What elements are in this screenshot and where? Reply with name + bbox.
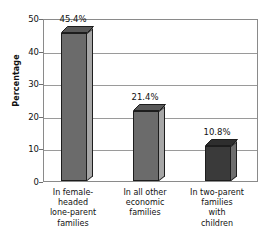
x-axis-label-line: families xyxy=(109,208,181,218)
bar-chart: Percentage 01020304050 45.4%21.4%10.8% I… xyxy=(0,0,274,242)
bar-value-label: 21.4% xyxy=(121,93,169,102)
bar-side-face xyxy=(159,107,165,181)
y-axis-tick-label: 50 xyxy=(5,15,39,24)
x-axis-label-line: with xyxy=(181,208,253,218)
bar-front-face xyxy=(61,33,87,181)
y-axis-tick-label: 20 xyxy=(5,113,39,122)
y-axis-tick-label: 0 xyxy=(5,178,39,187)
bar-front-face xyxy=(133,111,159,181)
x-axis-label: In two-parentfamilieswithchildren xyxy=(181,188,253,229)
bar-value-label: 45.4% xyxy=(49,15,97,24)
x-axis-label-line: headed xyxy=(37,198,109,208)
bar-side-face xyxy=(87,28,93,181)
y-axis-tick-label: 10 xyxy=(5,145,39,154)
bar-side-face xyxy=(231,141,237,181)
x-axis-label-line: families xyxy=(181,198,253,208)
y-axis-tick-label: 40 xyxy=(5,48,39,57)
bar-front-face xyxy=(205,146,231,181)
y-axis-tick-mark xyxy=(39,182,43,183)
x-axis-label: In female-headedlone-parentfamilies xyxy=(37,188,109,229)
x-axis-label-line: lone-parent xyxy=(37,208,109,218)
x-axis-label-line: In female- xyxy=(37,188,109,198)
bar[interactable] xyxy=(205,146,231,181)
x-axis-label-line: families xyxy=(37,219,109,229)
x-axis-label-line: children xyxy=(181,219,253,229)
bar-value-label: 10.8% xyxy=(193,128,241,137)
x-axis-label-line: economic xyxy=(109,198,181,208)
x-axis-label: In all othereconomicfamilies xyxy=(109,188,181,219)
y-axis-tick-label: 30 xyxy=(5,80,39,89)
bar[interactable] xyxy=(133,111,159,181)
x-axis-label-line: In all other xyxy=(109,188,181,198)
x-axis-label-line: In two-parent xyxy=(181,188,253,198)
bar[interactable] xyxy=(61,33,87,181)
